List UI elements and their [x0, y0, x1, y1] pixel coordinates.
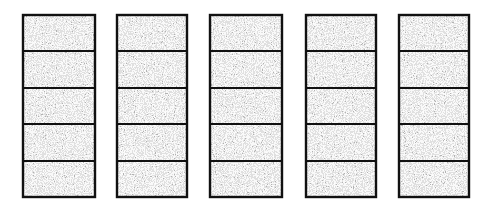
stippled-cell [117, 124, 187, 161]
column-3 [210, 15, 282, 197]
stippled-cell [210, 88, 282, 124]
stacked-cells-diagram [0, 0, 495, 210]
stippled-cell [23, 124, 95, 161]
column-4 [306, 15, 376, 197]
stippled-cell [117, 161, 187, 197]
stippled-cell [117, 51, 187, 88]
stippled-cell [399, 161, 469, 197]
stippled-cell [23, 51, 95, 88]
stippled-cell [117, 15, 187, 51]
stippled-cell [399, 124, 469, 161]
stippled-cell [399, 88, 469, 124]
stippled-cell [23, 88, 95, 124]
stippled-cell [23, 15, 95, 51]
column-5 [399, 15, 469, 197]
stippled-cell [399, 51, 469, 88]
stippled-cell [117, 88, 187, 124]
stippled-cell [210, 15, 282, 51]
column-1 [23, 15, 95, 197]
stippled-cell [23, 161, 95, 197]
stippled-cell [306, 124, 376, 161]
stippled-cell [399, 15, 469, 51]
stippled-cell [210, 51, 282, 88]
stippled-cell [306, 161, 376, 197]
column-2 [117, 15, 187, 197]
stippled-cell [306, 51, 376, 88]
stippled-cell [210, 124, 282, 161]
stippled-cell [210, 161, 282, 197]
stippled-cell [306, 15, 376, 51]
columns-layer [23, 15, 469, 197]
stippled-cell [306, 88, 376, 124]
